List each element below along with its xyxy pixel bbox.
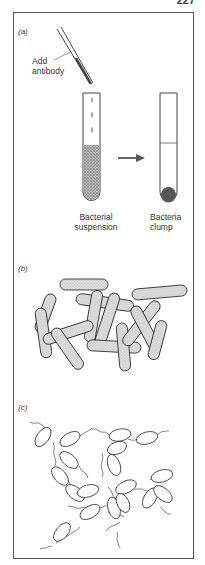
panel-label-c: (c) bbox=[18, 403, 27, 412]
bacteria-clump-line2: clump bbox=[150, 222, 190, 232]
bacteria-clump-line1: Bacteria bbox=[150, 212, 190, 222]
figure-artwork bbox=[0, 0, 205, 565]
add-antibody-line2: antibody bbox=[32, 66, 64, 76]
add-antibody-line1: Add bbox=[32, 56, 64, 66]
bacterial-suspension-label: Bacterial suspension bbox=[68, 212, 124, 232]
panel-label-a: (a) bbox=[18, 27, 28, 36]
flagellated-bacteria-network-icon bbox=[30, 422, 175, 549]
bacterial-suspension-line1: Bacterial bbox=[68, 212, 124, 222]
panel-label-b: (b) bbox=[18, 264, 28, 273]
bacteria-clump-label: Bacteria clump bbox=[150, 212, 190, 232]
test-tube-suspension-icon bbox=[83, 93, 100, 201]
bacterial-suspension-line2: suspension bbox=[68, 222, 124, 232]
test-tube-clump-icon bbox=[160, 93, 177, 203]
right-arrow-icon bbox=[118, 154, 145, 162]
add-antibody-label: Add antibody bbox=[32, 56, 64, 76]
rod-bacteria-cluster-icon bbox=[33, 279, 187, 372]
